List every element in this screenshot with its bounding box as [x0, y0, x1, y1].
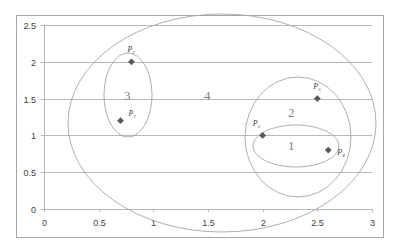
x-tick-label: 0 [42, 218, 47, 228]
cluster-label-4: 4 [204, 88, 211, 103]
x-tick-label: 1 [151, 218, 156, 228]
cluster-scatter-chart: 00.511.522.5 00.511.522.53 1 2 3 4 P1P2P… [0, 0, 398, 250]
y-tick-label: 2 [31, 58, 36, 68]
x-tick-label: 0.5 [93, 218, 106, 228]
x-tick-label: 2.5 [311, 218, 324, 228]
chart-canvas: 00.511.522.5 00.511.522.53 1 2 3 4 P1P2P… [0, 0, 398, 250]
y-tick-label: 1 [31, 131, 36, 141]
x-tick-label: 1.5 [202, 218, 215, 228]
cluster-label-1: 1 [288, 138, 295, 153]
cluster-label-3: 3 [124, 88, 131, 103]
y-tick-label: 2.5 [23, 21, 36, 31]
x-tick-label: 2 [261, 218, 266, 228]
y-tick-label: 0.5 [23, 168, 36, 178]
chart-frame [17, 16, 384, 238]
y-tick-label: 1.5 [23, 95, 36, 105]
cluster-label-2: 2 [288, 105, 295, 120]
x-tick-label: 3 [370, 218, 375, 228]
y-tick-label: 0 [31, 205, 36, 215]
